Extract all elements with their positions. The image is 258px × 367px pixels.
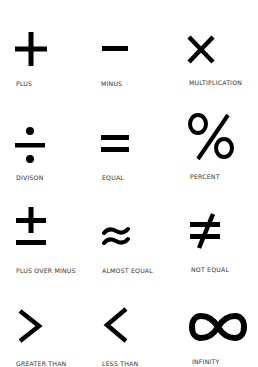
label-plus-over-minus: PLUS OVER MINUS: [16, 267, 76, 274]
division-icon: [15, 127, 45, 163]
equal-icon: [101, 135, 129, 153]
label-not-equal: NOT EQUAL: [191, 266, 229, 273]
plus-over-minus-icon: [16, 207, 46, 247]
greater-than-icon: [17, 308, 43, 344]
label-division: DIVISON: [16, 174, 43, 181]
plus-icon: [15, 32, 47, 66]
label-minus: MINUS: [101, 80, 122, 87]
almost-equal-icon: [102, 225, 130, 247]
label-equal: EQUAL: [102, 174, 124, 181]
label-less-than: LESS THAN: [102, 360, 138, 367]
less-than-icon: [103, 306, 129, 344]
minus-icon: [102, 46, 128, 52]
label-percent: PERCENT: [190, 173, 220, 180]
label-plus: PLUS: [16, 80, 32, 87]
not-equal-icon: [190, 213, 220, 249]
label-almost-equal: ALMOST EQUAL: [102, 267, 153, 274]
label-greater-than: GREATER THAN: [16, 360, 66, 367]
label-infinity: INFINITY: [192, 358, 219, 365]
multiplication-icon: [187, 35, 215, 64]
percent-icon: [188, 112, 236, 162]
label-multiplication: MULTIPLICATION: [189, 79, 242, 86]
infinity-icon: [189, 312, 247, 342]
